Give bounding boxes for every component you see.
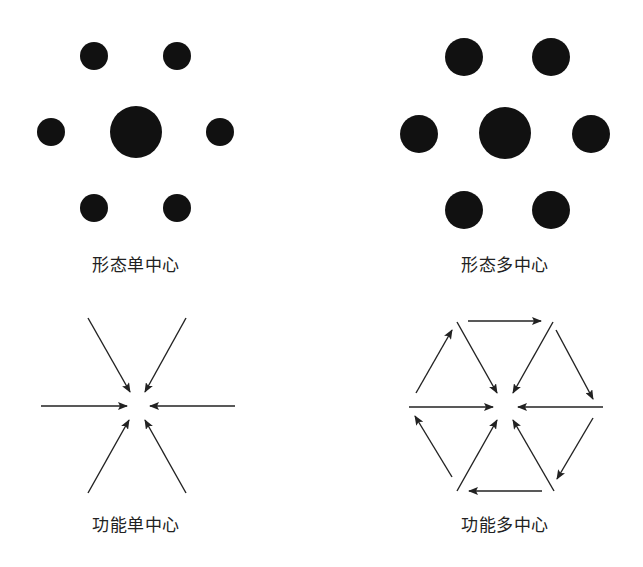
dot <box>110 106 162 158</box>
polycentric-diagram <box>0 0 643 567</box>
arrow <box>557 418 593 479</box>
arrow <box>88 318 130 392</box>
func-single-arrows <box>41 318 235 493</box>
func-multi-arrows <box>409 321 603 491</box>
label-func-single: 功能单中心 <box>92 511 180 536</box>
dot <box>479 107 531 159</box>
label-morph-single: 形态单中心 <box>92 251 180 276</box>
arrow <box>415 416 452 477</box>
arrow <box>513 420 554 491</box>
arrow <box>457 420 497 491</box>
morph-single-dots <box>37 42 234 222</box>
arrow <box>556 330 593 399</box>
dot <box>37 118 65 146</box>
dot <box>163 194 191 222</box>
dot <box>445 191 483 229</box>
dot <box>80 194 108 222</box>
arrow <box>457 322 497 393</box>
dot <box>206 118 234 146</box>
dot <box>572 115 610 153</box>
arrow <box>513 322 553 393</box>
dot <box>532 191 570 229</box>
dot <box>445 38 483 76</box>
dot <box>80 42 108 70</box>
arrow <box>416 330 452 393</box>
dot <box>400 115 438 153</box>
morph-multi-dots <box>400 38 610 229</box>
dot <box>532 38 570 76</box>
arrow <box>145 318 186 392</box>
dot <box>163 42 191 70</box>
label-func-multi: 功能多中心 <box>461 511 549 536</box>
arrow <box>145 420 186 493</box>
label-morph-multi: 形态多中心 <box>461 251 549 276</box>
arrow <box>88 420 129 493</box>
